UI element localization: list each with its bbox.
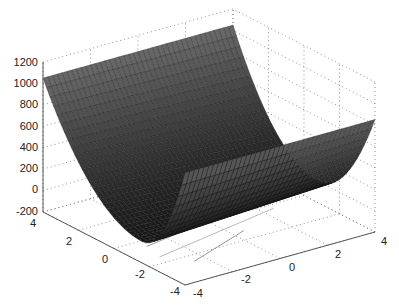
left-tick-neg2: -2 [135,268,145,280]
right-floor-axis [185,232,375,285]
z-tick-200: 200 [20,162,38,174]
z-tick-400: 400 [20,141,38,153]
left-tick-neg4: -4 [170,285,180,297]
z-tick-1200: 1200 [14,56,38,68]
z-tick-0: 0 [32,183,38,195]
right-tick-neg2: -2 [241,273,251,285]
z-tick-1000: 1000 [14,77,38,89]
right-tick-0: 0 [289,261,295,273]
left-tick-4: 4 [30,217,36,229]
left-tick-2: 2 [66,235,72,247]
right-tick-4: 4 [381,235,387,247]
z-tick-neg200: -200 [16,205,38,217]
right-tick-2: 2 [335,248,341,260]
z-tick-600: 600 [20,120,38,132]
surface-plot: 1200 1000 800 600 400 200 0 -200 4 2 0 -… [0,0,399,307]
z-tick-800: 800 [20,98,38,110]
left-tick-0: 0 [102,253,108,265]
right-tick-neg4: -4 [193,287,203,299]
surface-mesh [43,25,375,243]
